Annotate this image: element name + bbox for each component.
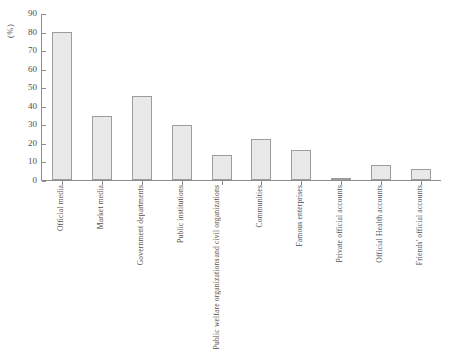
y-tick-label: 20 <box>28 138 37 149</box>
y-tick-label: 0 <box>33 175 38 186</box>
x-category-label: Communities <box>255 185 264 228</box>
bar <box>132 96 152 180</box>
bar <box>212 155 232 180</box>
x-category-label-line: and civil organizations <box>212 185 221 257</box>
bar <box>371 165 391 180</box>
bar-series <box>42 14 441 180</box>
x-category-label: Famous enterprises <box>295 185 304 247</box>
x-category-label: Public welfare organizationsand civil or… <box>212 185 230 349</box>
y-tick-label: 90 <box>28 8 37 19</box>
x-category-label: Friends' official accounts <box>415 185 424 265</box>
x-category-label: Official media <box>56 185 65 231</box>
bar <box>331 178 351 180</box>
y-tick-label: 60 <box>28 64 37 75</box>
x-category-label-line: Public welfare organizations <box>212 258 221 349</box>
bar <box>52 32 72 180</box>
x-category-label: Private official accounts <box>335 185 344 262</box>
bar <box>92 116 112 180</box>
bar <box>251 139 271 180</box>
bar <box>411 169 431 180</box>
bar <box>291 150 311 180</box>
y-tick-label: 30 <box>28 119 37 130</box>
x-category-label: Public institutions <box>176 185 185 243</box>
y-tick-label: 50 <box>28 82 37 93</box>
y-tick-label: 10 <box>28 156 37 167</box>
x-category-label: Government departments <box>136 185 145 265</box>
x-category-label: Market media <box>96 185 105 229</box>
x-category-label: Official Health accounts <box>375 185 384 263</box>
y-axis-title: (%) <box>2 8 18 54</box>
y-tick-label: 40 <box>28 101 37 112</box>
y-tick-label: 70 <box>28 45 37 56</box>
plot-area: 0102030405060708090 <box>41 14 441 181</box>
y-tick-label: 80 <box>28 27 37 38</box>
bar <box>172 125 192 180</box>
x-axis-category-labels: Official mediaMarket mediaGovernment dep… <box>41 185 441 305</box>
